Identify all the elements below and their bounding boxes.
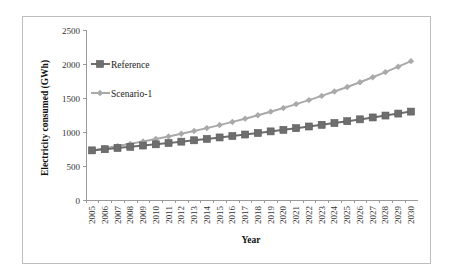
data-point	[318, 121, 325, 128]
data-point	[267, 128, 274, 135]
data-point	[140, 142, 147, 149]
data-point	[101, 146, 108, 153]
x-axis-title: Year	[242, 235, 262, 245]
y-tick-label: 1500	[62, 94, 81, 104]
legend-square-marker-icon	[97, 61, 104, 68]
data-point	[242, 131, 249, 138]
data-point	[203, 135, 210, 142]
data-point	[114, 144, 121, 151]
x-tick-label: 2015	[215, 206, 225, 225]
y-tick-label: 0	[76, 196, 81, 206]
data-point	[229, 133, 236, 140]
x-tick-label: 2010	[151, 206, 161, 225]
y-tick-label: 2000	[62, 60, 81, 70]
x-tick-label: 2025	[342, 206, 352, 225]
x-tick-label: 2016	[227, 206, 237, 225]
y-tick-label: 1000	[62, 128, 81, 138]
data-point	[254, 129, 261, 136]
y-tick-label: 2500	[62, 26, 81, 36]
data-point	[356, 116, 363, 123]
data-point	[305, 123, 312, 130]
x-tick-label: 2013	[189, 206, 199, 225]
data-point	[382, 112, 389, 119]
x-tick-label: 2005	[87, 206, 97, 225]
x-tick-label: 2030	[406, 206, 416, 225]
data-point	[178, 138, 185, 145]
data-point	[216, 134, 223, 141]
data-point	[152, 141, 159, 148]
data-point	[280, 126, 287, 133]
data-point	[331, 120, 338, 127]
data-point	[369, 114, 376, 121]
x-tick-label: 2024	[329, 206, 339, 225]
y-tick-label: 500	[67, 162, 81, 172]
data-point	[344, 118, 351, 125]
y-axis-title: Electricity consumed (GWh)	[40, 60, 51, 176]
x-tick-label: 2019	[266, 206, 276, 225]
legend-label: Reference	[111, 60, 150, 70]
x-tick-label: 2023	[317, 206, 327, 225]
x-tick-label: 2026	[355, 206, 365, 225]
x-tick-label: 2008	[125, 206, 135, 225]
legend-label: Scenario-1	[111, 89, 152, 99]
x-tick-label: 2018	[253, 206, 263, 225]
data-point	[408, 108, 415, 115]
x-tick-label: 2014	[202, 206, 212, 225]
x-tick-label: 2011	[164, 206, 174, 224]
data-point	[191, 137, 198, 144]
x-tick-label: 2022	[304, 206, 314, 224]
data-point	[395, 110, 402, 117]
x-tick-label: 2012	[176, 206, 186, 224]
x-tick-label: 2007	[113, 206, 123, 225]
chart-frame	[23, 17, 431, 264]
x-tick-label: 2017	[240, 206, 250, 225]
x-tick-label: 2020	[278, 206, 288, 225]
data-point	[165, 140, 172, 147]
data-point	[293, 125, 300, 132]
data-point	[127, 143, 134, 150]
x-tick-label: 2029	[393, 206, 403, 225]
x-tick-label: 2006	[100, 206, 110, 225]
line-chart: 05001000150020002500 2005200620072008200…	[0, 0, 451, 278]
data-point	[89, 147, 96, 154]
x-tick-label: 2028	[380, 206, 390, 225]
x-tick-label: 2021	[291, 206, 301, 224]
x-tick-label: 2027	[368, 206, 378, 225]
x-tick-label: 2009	[138, 206, 148, 225]
